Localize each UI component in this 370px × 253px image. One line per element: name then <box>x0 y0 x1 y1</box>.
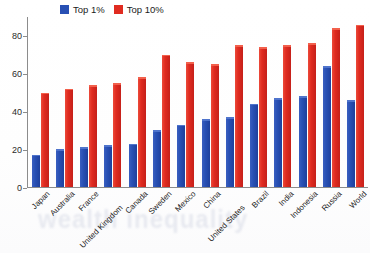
x-label-brazil: Brazil <box>251 190 271 210</box>
bar-top-1[interactable] <box>347 100 355 187</box>
y-tick-mark <box>23 112 27 113</box>
bar-cap <box>356 25 364 27</box>
bar-top-10[interactable] <box>332 28 340 187</box>
bar-top-1[interactable] <box>250 104 258 187</box>
bar-cap <box>274 98 282 100</box>
bar-top-10[interactable] <box>308 43 316 187</box>
x-label-united-kingdom: United Kingdom <box>79 204 125 250</box>
bar-group <box>319 17 343 187</box>
bar-group <box>344 17 368 187</box>
bar-face <box>259 47 267 187</box>
bar-cap <box>129 144 137 146</box>
bar-cap <box>283 45 291 47</box>
bar-top-10[interactable] <box>65 89 73 187</box>
bar-face <box>332 28 340 187</box>
bar-face <box>308 43 316 187</box>
bar-top-1[interactable] <box>32 155 40 187</box>
bar-face <box>274 98 282 187</box>
bar-top-10[interactable] <box>211 64 219 187</box>
bar-group <box>295 17 319 187</box>
plot-area: 020406080 <box>27 17 368 188</box>
bar-top-10[interactable] <box>356 25 364 187</box>
bar-top-1[interactable] <box>226 117 234 187</box>
x-label-mexico: Mexico <box>174 190 198 214</box>
bar-face <box>202 119 210 187</box>
bar-top-10[interactable] <box>113 83 121 187</box>
bar-top-10[interactable] <box>259 47 267 187</box>
bar-top-1[interactable] <box>299 96 307 187</box>
bar-top-1[interactable] <box>202 119 210 187</box>
bar-face <box>65 89 73 187</box>
bar-cap <box>202 119 210 121</box>
bar-face <box>129 144 137 187</box>
bar-cap <box>56 149 64 151</box>
bar-top-1[interactable] <box>177 125 185 187</box>
bar-top-10[interactable] <box>41 93 49 187</box>
bar-group <box>174 17 198 187</box>
bar-cap <box>308 43 316 45</box>
bar-face <box>186 62 194 187</box>
bar-face <box>89 85 97 187</box>
bar-cap <box>89 85 97 87</box>
bar-group <box>149 17 173 187</box>
bar-face <box>177 125 185 187</box>
bar-groups <box>28 17 368 187</box>
bar-face <box>283 45 291 187</box>
bar-group <box>101 17 125 187</box>
bar-top-1[interactable] <box>323 66 331 187</box>
bar-top-1[interactable] <box>56 149 64 187</box>
x-label-sweden: Sweden <box>148 190 174 216</box>
bar-cap <box>332 28 340 30</box>
bar-cap <box>347 100 355 102</box>
bar-top-1[interactable] <box>80 147 88 187</box>
x-label-russia: Russia <box>321 190 344 213</box>
bar-cap <box>226 117 234 119</box>
bar-face <box>80 147 88 187</box>
x-axis-labels: JapanAustraliaFranceUnited KingdomCanada… <box>28 190 369 252</box>
x-label-china: China <box>202 190 222 210</box>
bar-face <box>356 25 364 187</box>
bar-top-1[interactable] <box>129 144 137 187</box>
x-label-world: World <box>348 190 368 210</box>
x-label-france: France <box>77 190 100 213</box>
bar-face <box>56 149 64 187</box>
bar-face <box>250 104 258 187</box>
legend-swatch-top-10 <box>114 5 123 14</box>
bar-top-10[interactable] <box>138 77 146 187</box>
bar-cap <box>80 147 88 149</box>
bar-group <box>77 17 101 187</box>
bar-face <box>153 130 161 187</box>
bar-group <box>222 17 246 187</box>
bar-cap <box>259 47 267 49</box>
bar-chart: wealth inequality Top 1%Top 10% 02040608… <box>0 0 370 253</box>
legend-label-2: Top 10% <box>127 5 164 15</box>
y-tick-mark <box>23 74 27 75</box>
bar-top-10[interactable] <box>89 85 97 187</box>
legend-item-2[interactable]: Top 10% <box>114 5 164 15</box>
bar-top-1[interactable] <box>153 130 161 187</box>
bar-top-10[interactable] <box>186 62 194 187</box>
bar-cap <box>186 62 194 64</box>
bar-group <box>28 17 52 187</box>
bar-group <box>125 17 149 187</box>
bar-face <box>113 83 121 187</box>
bar-top-1[interactable] <box>274 98 282 187</box>
y-tick-label: 80 <box>12 32 22 41</box>
chart-legend: Top 1%Top 10% <box>60 2 164 17</box>
bar-top-10[interactable] <box>283 45 291 187</box>
bar-top-10[interactable] <box>162 55 170 187</box>
bar-group <box>247 17 271 187</box>
bar-top-1[interactable] <box>104 145 112 187</box>
bar-cap <box>211 64 219 66</box>
legend-item-1[interactable]: Top 1% <box>60 5 105 15</box>
bar-top-10[interactable] <box>235 45 243 187</box>
bar-group <box>198 17 222 187</box>
bar-face <box>235 45 243 187</box>
bar-face <box>104 145 112 187</box>
bar-cap <box>323 66 331 68</box>
x-label-united-states: United States <box>207 204 247 244</box>
legend-label-1: Top 1% <box>73 5 105 15</box>
bar-cap <box>138 77 146 79</box>
y-tick-mark <box>23 150 27 151</box>
bar-face <box>32 155 40 187</box>
